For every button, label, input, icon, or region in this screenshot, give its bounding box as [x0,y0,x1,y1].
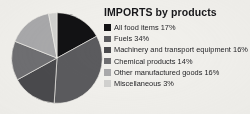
legend-swatch-icon [104,80,111,87]
chart-title: IMPORTS by products [104,6,250,19]
pie-chart-figure: IMPORTS by products All food items 17%Fu… [0,0,250,114]
legend-swatch-icon [104,58,111,65]
chart-legend-panel: IMPORTS by products All food items 17%Fu… [104,6,250,89]
legend-item-label: Machinery and transport equipment 16% [114,45,248,54]
legend-item-label: All food items 17% [114,23,176,32]
legend-item-label: Other manufactured goods 16% [114,68,219,77]
legend-item: All food items 17% [104,22,250,33]
legend-swatch-icon [104,24,111,31]
legend-item-label: Miscellaneous 3% [114,79,174,88]
pie-svg [11,12,103,104]
pie-chart-graphic [11,12,103,104]
legend-swatch-icon [104,69,111,76]
legend-list: All food items 17%Fuels 34%Machinery and… [104,22,250,89]
legend-item: Other manufactured goods 16% [104,67,250,78]
legend-swatch-icon [104,36,111,43]
legend-item-label: Chemical products 14% [114,57,192,66]
legend-item: Fuels 34% [104,33,250,44]
legend-item-label: Fuels 34% [114,34,149,43]
legend-item: Miscellaneous 3% [104,78,250,89]
legend-swatch-icon [104,47,111,54]
pie-slice-group [12,13,103,104]
legend-item: Chemical products 14% [104,56,250,67]
legend-item: Machinery and transport equipment 16% [104,44,250,55]
